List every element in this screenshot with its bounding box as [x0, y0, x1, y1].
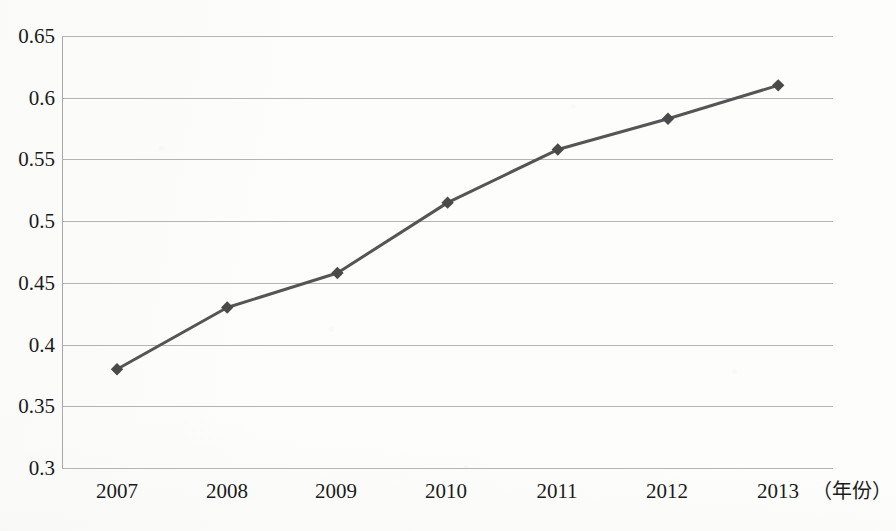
series-line [117, 85, 778, 369]
series-markers [111, 79, 785, 375]
data-point-marker [552, 143, 564, 155]
data-series-layer [0, 0, 896, 531]
data-point-marker [662, 112, 674, 124]
line-chart-figure: 0.65 0.6 0.55 0.5 0.45 0.4 0.35 0.3 2007… [0, 0, 896, 531]
data-point-marker [221, 301, 233, 313]
data-point-marker [111, 363, 123, 375]
data-point-marker [772, 79, 784, 91]
